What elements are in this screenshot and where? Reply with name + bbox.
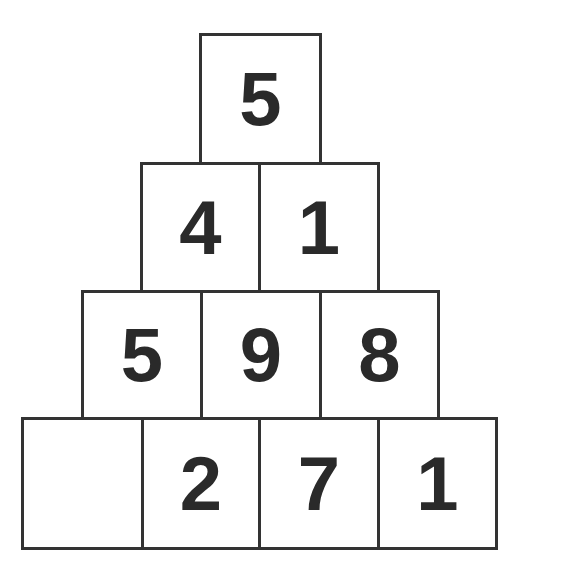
pyramid-cell-r4-c3: 7: [258, 417, 380, 550]
pyramid-cell-r2-c2: 1: [258, 162, 380, 293]
pyramid-cell-r3-c2: 9: [200, 290, 322, 420]
number-pyramid: 5 4 1 5 9 8 2 7 1: [0, 0, 570, 570]
pyramid-cell-r4-c2: 2: [141, 417, 261, 550]
pyramid-cell-r3-c3: 8: [319, 290, 440, 420]
pyramid-cell-r3-c1: 5: [81, 290, 203, 420]
pyramid-cell-r1-c1: 5: [199, 33, 322, 165]
pyramid-cell-r2-c1: 4: [140, 162, 261, 293]
pyramid-cell-r4-c1-empty[interactable]: [21, 417, 144, 550]
pyramid-cell-r4-c4: 1: [377, 417, 498, 550]
